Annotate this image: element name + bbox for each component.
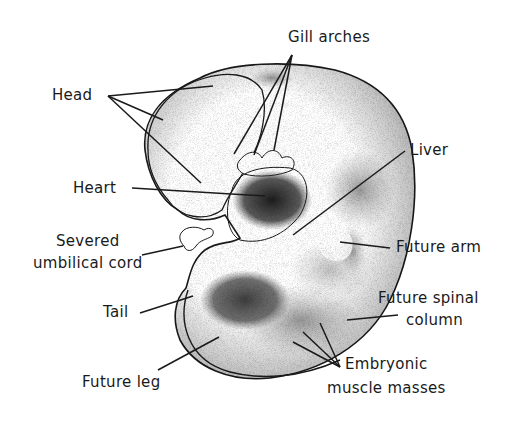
label-heart: Heart (73, 179, 116, 198)
umbilical-cord-shape (180, 227, 213, 250)
label-future-spinal: Future spinal (378, 289, 479, 308)
embryo-diagram: Head Gill arches Heart Liver Severed umb… (0, 0, 525, 432)
label-liver: Liver (410, 141, 448, 160)
leader-umbilical (142, 246, 183, 255)
label-future-leg: Future leg (82, 373, 160, 392)
label-muscle-masses: muscle masses (327, 379, 446, 398)
label-severed: Severed (56, 232, 120, 251)
label-tail: Tail (103, 303, 128, 322)
label-future-arm: Future arm (396, 238, 481, 257)
label-gill-arches: Gill arches (288, 28, 370, 47)
label-umbilical-cord: umbilical cord (33, 254, 143, 273)
label-embryonic: Embryonic (345, 355, 427, 374)
label-column: column (406, 311, 463, 330)
leader-head-2 (108, 96, 163, 120)
label-head: Head (52, 86, 92, 105)
embryo-illustration (0, 0, 525, 432)
